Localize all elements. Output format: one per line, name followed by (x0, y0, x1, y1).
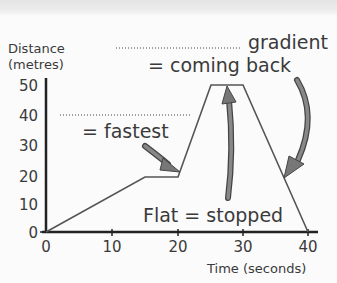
y-axis-title: Distance (8, 41, 65, 56)
x-tick-label: 10 (102, 238, 121, 256)
y-axis-title-units: (metres) (8, 57, 64, 72)
arrow-stopped-icon (222, 86, 236, 198)
y-tick-label: 50 (19, 77, 38, 95)
x-tick-label: 30 (233, 238, 252, 256)
y-tick-label: 0 (28, 224, 38, 242)
annotation-fastest: = fastest (82, 120, 169, 142)
annotation-coming-back: = coming back (148, 54, 291, 76)
y-tick-label: 40 (19, 107, 38, 125)
x-tick-label: 0 (41, 238, 51, 256)
x-tick-label: 20 (168, 238, 187, 256)
distance-time-graph: 0 10 20 30 40 0 10 20 30 40 50 Distance … (0, 0, 337, 283)
arrow-gradient-icon (284, 80, 308, 178)
y-tick-label: 30 (19, 137, 38, 155)
arrow-fastest-icon (145, 146, 180, 172)
annotation-gradient: gradient (248, 31, 328, 53)
annotation-flat-stopped: Flat = stopped (143, 204, 283, 226)
x-tick-label: 40 (298, 238, 317, 256)
x-axis-title: Time (seconds) (206, 261, 306, 276)
y-tick-label: 10 (19, 196, 38, 214)
y-tick-label: 20 (19, 168, 38, 186)
